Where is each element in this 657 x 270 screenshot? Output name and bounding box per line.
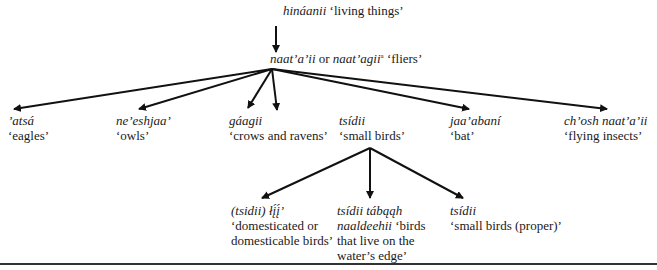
water-edge-node: tsídii tábąąh naaldeehii ‘birds that liv… (337, 203, 425, 263)
proper-term: tsídii (450, 203, 562, 218)
root-node: hináanii ‘living things’ (283, 3, 404, 18)
crows-gloss: ‘crows and ravens’ (229, 128, 328, 143)
eagles-term: ’atsá (8, 113, 49, 128)
insects-node: ch’osh naat’a’ii ‘flying insects’ (564, 113, 647, 143)
fliers-node: naat’a’ii or naat’agiia ‘fliers’ (270, 49, 422, 66)
proper-node: tsídii ‘small birds (proper)’ (450, 203, 562, 233)
root-gloss: ‘living things’ (330, 3, 404, 18)
crows-term: gáagii (229, 113, 328, 128)
edge-fliers-to-small-birds (272, 69, 277, 110)
water-edge-gloss-3: that live on the (337, 233, 425, 248)
crows-node: gáagii ‘crows and ravens’ (229, 113, 328, 143)
water-edge-term: tsídii tábąąh (337, 203, 425, 218)
small-birds-gloss: ‘small birds’ (339, 128, 405, 143)
bat-node: jaa’abaní ‘bat’ (450, 113, 501, 143)
domesticated-term: (tsidii) łį́į́’ (231, 203, 333, 218)
eagles-gloss: ‘eagles’ (8, 128, 49, 143)
fliers-term-b: naat’agii (333, 51, 381, 66)
fliers-superscript: a (381, 52, 384, 60)
water-edge-term-2: naaldeehii (337, 218, 392, 233)
domesticated-gloss-2: domesticable birds’ (231, 233, 333, 248)
water-edge-gloss-2: ‘birds (395, 218, 425, 233)
bottom-rule (0, 263, 657, 265)
edge-small-birds-to-proper (370, 148, 463, 198)
small-birds-term: tsídii (339, 113, 405, 128)
fliers-connector: or (319, 51, 330, 66)
root-term: hináanii (283, 3, 326, 18)
proper-gloss: ‘small birds (proper)’ (450, 218, 562, 233)
domesticated-gloss-1: ‘domesticated or (231, 218, 333, 233)
insects-gloss: ‘flying insects’ (564, 128, 647, 143)
owls-node: ne’eshjaa’ ‘owls’ (116, 113, 171, 143)
fliers-gloss: ‘fliers’ (387, 51, 422, 66)
owls-gloss: ‘owls’ (116, 128, 171, 143)
owls-term: ne’eshjaa’ (116, 113, 171, 128)
bat-gloss: ‘bat’ (450, 128, 501, 143)
bat-term: jaa’abaní (450, 113, 501, 128)
domesticated-node: (tsidii) łį́į́’ ‘domesticated or domesti… (231, 203, 333, 248)
insects-term: ch’osh naat’a’ii (564, 113, 647, 128)
edge-small-birds-to-domesticated (262, 148, 370, 198)
edge-fliers-to-eagles (14, 69, 272, 109)
water-edge-gloss-4: water’s edge’ (337, 248, 425, 263)
small-birds-node: tsídii ‘small birds’ (339, 113, 405, 143)
fliers-term-a: naat’a’ii (270, 51, 316, 66)
eagles-node: ’atsá ‘eagles’ (8, 113, 49, 143)
